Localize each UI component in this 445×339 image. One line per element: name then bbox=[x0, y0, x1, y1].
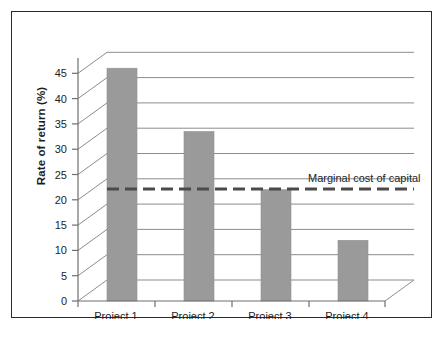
bar-project-4[interactable] bbox=[338, 240, 368, 301]
y-tick-label-20: 20 bbox=[55, 194, 67, 206]
chart-frame: Rate of return (%) bbox=[11, 11, 432, 318]
y-tick-labels: 0 5 10 15 20 25 30 35 40 45 bbox=[55, 67, 67, 307]
y-tick-label-0: 0 bbox=[61, 295, 67, 307]
bar-project-1[interactable] bbox=[107, 68, 137, 301]
x-category-label-project-4: Project 4 bbox=[325, 310, 368, 319]
chart-figure: Rate of return (%) bbox=[0, 0, 445, 339]
x-category-labels: Project 1 Project 2 Project 3 Project 4 bbox=[94, 310, 368, 319]
y-tick-label-35: 35 bbox=[55, 118, 67, 130]
y-tick-label-5: 5 bbox=[61, 270, 67, 282]
bar-project-3[interactable] bbox=[261, 190, 291, 301]
y-axis bbox=[72, 58, 78, 301]
marginal-cost-of-capital-label: Marginal cost of capital bbox=[308, 172, 421, 184]
y-tick-label-45: 45 bbox=[55, 67, 67, 79]
x-category-label-project-2: Project 2 bbox=[171, 310, 214, 319]
x-category-label-project-1: Project 1 bbox=[94, 310, 137, 319]
y-tick-label-30: 30 bbox=[55, 143, 67, 155]
y-tick-label-15: 15 bbox=[55, 219, 67, 231]
y-tick-label-25: 25 bbox=[55, 169, 67, 181]
y-tick-label-10: 10 bbox=[55, 244, 67, 256]
y-tick-label-40: 40 bbox=[55, 93, 67, 105]
x-axis bbox=[78, 301, 385, 307]
bar-project-2[interactable] bbox=[184, 132, 214, 302]
x-category-label-project-3: Project 3 bbox=[248, 310, 291, 319]
plot-area: 0 5 10 15 20 25 30 35 40 45 bbox=[12, 12, 433, 319]
